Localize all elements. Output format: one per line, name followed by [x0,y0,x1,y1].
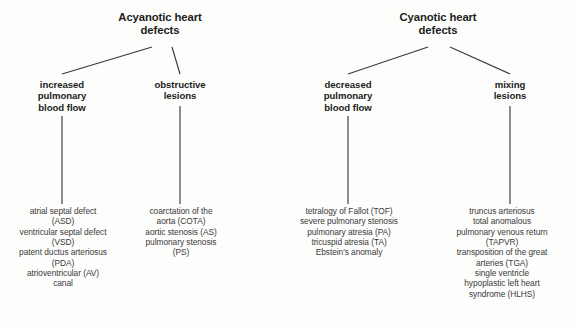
list-obstructive-lesions: coarctation of theaorta (COTA)aortic ste… [124,206,238,258]
list-item: canal [0,278,126,288]
list-item: tetralogy of Fallot (TOF) [286,206,412,216]
list-item: total anomalous [428,216,576,226]
category-mixing-line-1: mixing [452,79,568,90]
list-item: syndrome (HLHS) [428,289,576,299]
root-title-cyanotic: Cyanotic heart defects [368,11,508,36]
list-item: severe pulmonary stenosis [286,216,412,226]
diagram-canvas: Acyanotic heart defects Cyanotic heart d… [0,0,576,328]
list-item: coarctation of the [124,206,238,216]
list-increased-pulmonary-blood-flow: atrial septal defect(ASD)ventricular sep… [0,206,126,289]
root-title-cyanotic-line-2: defects [368,24,508,37]
connector-cyanotic-to-decreased [348,47,428,74]
list-item: truncus arteriosus [428,206,576,216]
list-item: aortic stenosis (AS) [124,227,238,237]
category-decreased-pulmonary-blood-flow: decreased pulmonary blood flow [288,79,408,113]
list-item: pulmonary atresia (PA) [286,227,412,237]
list-item: (TAPVR) [428,237,576,247]
connector-acyanotic-to-obstructive [172,47,180,74]
list-item: tricuspid atresia (TA) [286,237,412,247]
category-increased-line-1: increased [2,79,122,90]
list-item: arteries (TGA) [428,258,576,268]
category-increased-line-2: pulmonary [2,90,122,101]
category-mixing-lesions: mixing lesions [452,79,568,102]
list-item: ventricular septal defect [0,227,126,237]
list-item: pulmonary stenosis [124,237,238,247]
list-item: patent ductus arteriosus [0,247,126,257]
list-item: single ventricle [428,268,576,278]
category-obstructive-lesions: obstructive lesions [122,79,238,102]
category-mixing-line-2: lesions [452,90,568,101]
root-title-acyanotic-line-2: defects [90,24,230,37]
list-item: (PS) [124,247,238,257]
category-increased-line-3: blood flow [2,102,122,113]
list-item: pulmonary venous return [428,227,576,237]
list-decreased-pulmonary-blood-flow: tetralogy of Fallot (TOF)severe pulmonar… [286,206,412,258]
category-obstructive-line-2: lesions [122,90,238,101]
category-decreased-line-2: pulmonary [288,90,408,101]
list-item: transposition of the great [428,247,576,257]
list-item: atrioventricular (AV) [0,268,126,278]
category-decreased-line-3: blood flow [288,102,408,113]
connector-acyanotic-to-increased [62,47,152,74]
connector-cyanotic-to-mixing [450,47,510,74]
category-obstructive-line-1: obstructive [122,79,238,90]
category-decreased-line-1: decreased [288,79,408,90]
root-title-cyanotic-line-1: Cyanotic heart [368,11,508,24]
category-increased-pulmonary-blood-flow: increased pulmonary blood flow [2,79,122,113]
list-item: hypoplastic left heart [428,278,576,288]
root-title-acyanotic-line-1: Acyanotic heart [90,11,230,24]
list-mixing-lesions: truncus arteriosustotal anomalouspulmona… [428,206,576,299]
list-item: atrial septal defect [0,206,126,216]
list-item: (ASD) [0,216,126,226]
list-item: Ebstein's anomaly [286,247,412,257]
list-item: aorta (COTA) [124,216,238,226]
list-item: (PDA) [0,258,126,268]
list-item: (VSD) [0,237,126,247]
root-title-acyanotic: Acyanotic heart defects [90,11,230,36]
